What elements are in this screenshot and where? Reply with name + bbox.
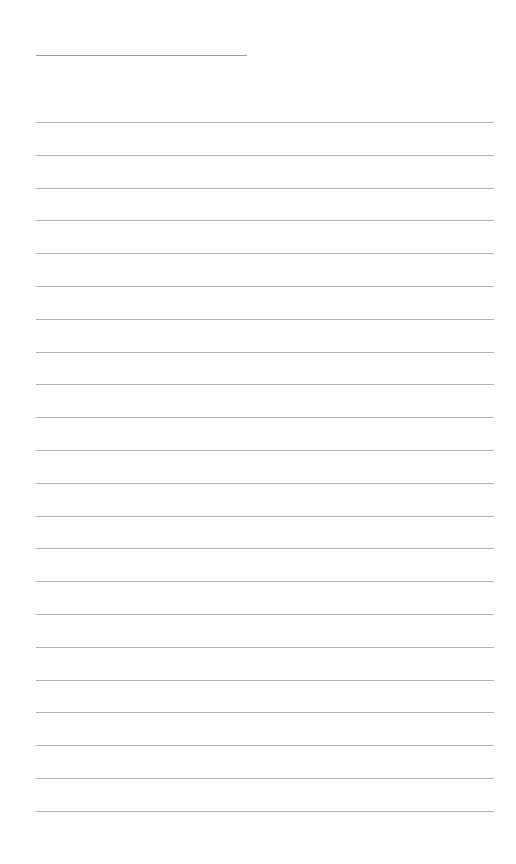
- ruled-line: [36, 516, 494, 517]
- ruled-line: [36, 352, 494, 353]
- ruled-line: [36, 811, 494, 812]
- ruled-line: [36, 319, 494, 320]
- ruled-line: [36, 712, 494, 713]
- ruled-line: [36, 188, 494, 189]
- ruled-line: [36, 614, 494, 615]
- ruled-line: [36, 122, 494, 123]
- ruled-line: [36, 155, 494, 156]
- ruled-line: [36, 450, 494, 451]
- ruled-line: [36, 220, 494, 221]
- lined-paper-page: [0, 0, 516, 864]
- ruled-line: [36, 384, 494, 385]
- ruled-line: [36, 253, 494, 254]
- ruled-line: [36, 778, 494, 779]
- ruled-line: [36, 417, 494, 418]
- ruled-line: [36, 647, 494, 648]
- ruled-line: [36, 483, 494, 484]
- ruled-line: [36, 548, 494, 549]
- title-line: [36, 55, 247, 56]
- ruled-line: [36, 745, 494, 746]
- ruled-line: [36, 581, 494, 582]
- ruled-line: [36, 286, 494, 287]
- ruled-line: [36, 680, 494, 681]
